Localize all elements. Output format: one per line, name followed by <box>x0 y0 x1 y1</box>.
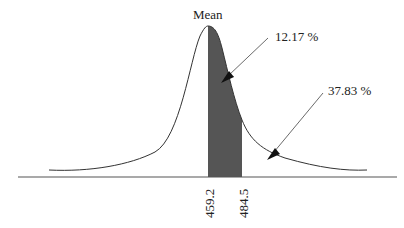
arrow-shaded-line <box>228 38 268 76</box>
arrow-tail-line <box>274 93 323 152</box>
shaded-percent-label: 12.17 % <box>275 29 318 45</box>
mean-label: Mean <box>193 7 223 23</box>
tick-threshold-value: 484.5 <box>236 189 252 218</box>
arrow-tail-head <box>267 148 280 160</box>
tail-percent-label: 37.83 % <box>328 83 371 99</box>
tick-mean-value: 459.2 <box>202 189 218 218</box>
shaded-region <box>208 26 242 177</box>
